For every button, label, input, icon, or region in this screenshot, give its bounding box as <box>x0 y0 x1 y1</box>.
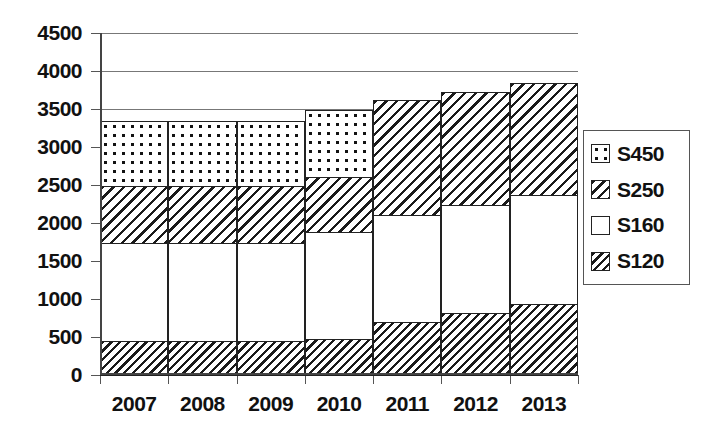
x-tick-label: 2007 <box>100 392 168 416</box>
x-tick-label: 2008 <box>168 392 236 416</box>
y-tick-label: 4500 <box>37 21 82 45</box>
legend-swatch-s250 <box>591 180 610 199</box>
y-tick-mark <box>91 185 100 186</box>
y-tick-mark <box>91 299 100 300</box>
plot-area <box>100 33 578 375</box>
y-tick-label: 1500 <box>37 249 82 273</box>
x-axis-labels: 2007200820092010201120122013 <box>100 392 578 416</box>
legend-swatch-s450 <box>591 144 610 163</box>
y-tick-mark <box>91 147 100 148</box>
legend-item-s160[interactable]: S160 <box>591 213 689 237</box>
x-tick-label: 2012 <box>441 392 509 416</box>
legend-label: S250 <box>617 178 664 202</box>
y-tick-label: 2500 <box>37 173 82 197</box>
legend-item-s250[interactable]: S250 <box>591 178 689 202</box>
legend-label: S160 <box>617 213 664 237</box>
legend-label: S120 <box>617 249 664 273</box>
y-tick-mark <box>91 33 100 34</box>
y-tick-label: 4000 <box>37 59 82 83</box>
y-tick-mark <box>91 375 100 376</box>
y-tick-mark <box>91 337 100 338</box>
y-tick-label: 500 <box>48 325 82 349</box>
y-tick-label: 3500 <box>37 97 82 121</box>
plot-frame <box>100 33 578 375</box>
x-tick-label: 2010 <box>305 392 373 416</box>
y-axis-labels: 050010001500200025003000350040004500 <box>0 0 82 448</box>
y-tick-label: 0 <box>71 363 82 387</box>
y-tick-label: 3000 <box>37 135 82 159</box>
y-tick-label: 1000 <box>37 287 82 311</box>
x-tick-label: 2011 <box>373 392 441 416</box>
x-tick-label: 2013 <box>510 392 578 416</box>
legend-swatch-s160 <box>591 216 610 235</box>
legend-item-s450[interactable]: S450 <box>591 142 689 166</box>
y-tick-mark <box>91 261 100 262</box>
legend-swatch-s120 <box>591 252 610 271</box>
x-tick-mark <box>578 375 579 384</box>
y-tick-label: 2000 <box>37 211 82 235</box>
y-tick-mark <box>91 109 100 110</box>
y-tick-mark <box>91 223 100 224</box>
legend-item-s120[interactable]: S120 <box>591 249 689 273</box>
legend-label: S450 <box>617 142 664 166</box>
chart-legend: S450S250S160S120 <box>583 130 690 285</box>
stacked-bar-chart: 050010001500200025003000350040004500 200… <box>0 0 705 448</box>
x-tick-label: 2009 <box>237 392 305 416</box>
y-tick-mark <box>91 71 100 72</box>
